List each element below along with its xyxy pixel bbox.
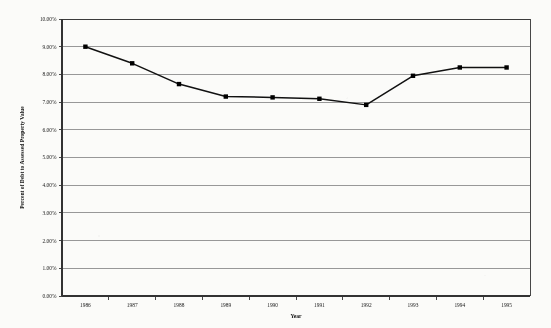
y-tick-label: 1.00% — [43, 265, 57, 271]
y-tick-label: 9.00% — [43, 44, 57, 50]
x-tick-label: 1994 — [454, 302, 465, 308]
x-tick-label: 1989 — [220, 302, 231, 308]
data-point-marker — [504, 65, 508, 69]
x-tick-label: 1992 — [361, 302, 372, 308]
data-point-marker — [177, 82, 181, 86]
data-point-marker — [224, 94, 228, 98]
x-tick-label: 1990 — [267, 302, 278, 308]
line-chart: 0.00%1.00%2.00%3.00%4.00%5.00%6.00%7.00%… — [0, 0, 551, 328]
chart-container: 0.00%1.00%2.00%3.00%4.00%5.00%6.00%7.00%… — [0, 0, 551, 328]
data-point-marker — [83, 45, 87, 49]
y-tick-label: 10.00% — [40, 16, 57, 22]
y-tick-label: 2.00% — [43, 238, 57, 244]
data-point-marker — [130, 61, 134, 65]
x-tick-label: 1986 — [80, 302, 91, 308]
y-tick-label: 3.00% — [43, 210, 57, 216]
x-tick-label: 1987 — [127, 302, 138, 308]
data-point-marker — [270, 95, 274, 99]
x-axis-title: Year — [290, 313, 302, 319]
y-tick-label: 8.00% — [43, 71, 57, 77]
data-point-marker — [364, 103, 368, 107]
y-axis-title: Percent of Debt to Assessed Property Val… — [19, 106, 25, 209]
y-tick-label: 5.00% — [43, 154, 57, 160]
x-tick-label: 1995 — [501, 302, 512, 308]
x-tick-label: 1988 — [174, 302, 185, 308]
y-tick-label: 7.00% — [43, 99, 57, 105]
data-point-marker — [458, 65, 462, 69]
y-tick-label: 6.00% — [43, 127, 57, 133]
data-point-marker — [411, 74, 415, 78]
x-tick-label: 1991 — [314, 302, 325, 308]
y-tick-label: 4.00% — [43, 182, 57, 188]
data-point-marker — [317, 97, 321, 101]
x-tick-label: 1993 — [408, 302, 419, 308]
y-tick-label: 0.00% — [43, 293, 57, 299]
chart-background — [0, 0, 551, 328]
